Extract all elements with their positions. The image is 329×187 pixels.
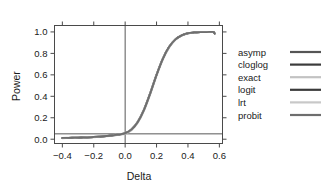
legend-label-cloglog: cloglog xyxy=(238,59,268,70)
y-tick-label: 0.8 xyxy=(34,48,47,59)
legend-label-lrt: lrt xyxy=(238,97,246,108)
figure-background xyxy=(0,0,329,187)
x-tick-label: 0.6 xyxy=(213,150,226,161)
y-tick-label: 0.0 xyxy=(34,134,47,145)
power-curve-figure: −0.4−0.20.00.20.40.6 0.00.20.40.60.81.0 … xyxy=(0,0,329,187)
x-tick-label: −0.4 xyxy=(53,150,72,161)
y-tick-label: 1.0 xyxy=(34,26,47,37)
y-tick-label: 0.2 xyxy=(34,112,47,123)
legend-label-probit: probit xyxy=(238,110,262,121)
y-axis-title: Power xyxy=(10,71,22,101)
x-tick-label: 0.4 xyxy=(181,150,194,161)
x-tick-label: −0.2 xyxy=(84,150,103,161)
y-tick-label: 0.4 xyxy=(34,91,47,102)
x-tick-label: 0.0 xyxy=(119,150,132,161)
legend-label-logit: logit xyxy=(238,84,256,95)
plot-canvas: −0.4−0.20.00.20.40.6 0.00.20.40.60.81.0 … xyxy=(0,0,329,187)
legend-label-asymp: asymp xyxy=(238,47,266,58)
y-tick-label: 0.6 xyxy=(34,69,47,80)
legend-label-exact: exact xyxy=(238,72,261,83)
x-tick-label: 0.2 xyxy=(150,150,163,161)
x-axis-title: Delta xyxy=(127,170,152,182)
